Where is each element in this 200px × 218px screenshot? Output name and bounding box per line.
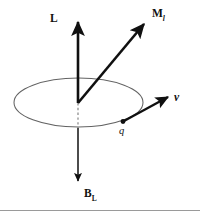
physics-vector-diagram-figure: L Ml v q BL [0,0,200,218]
label-field-base: B [84,187,92,199]
vector-magnetic-moment-Ml [78,24,144,103]
figure-bottom-rule [0,210,200,211]
label-velocity-v: v [174,92,179,104]
label-angular-momentum-L: L [50,13,58,25]
charge-point-q [121,119,126,124]
label-field-subscript: L [92,194,97,203]
label-magnetic-moment-subscript: l [163,14,165,23]
label-magnetic-moment-Ml: Ml [152,4,165,23]
vector-velocity-v [123,97,168,122]
label-charge-q: q [119,126,124,137]
vector-diagram-canvas [0,0,200,218]
label-field-BL: BL [84,184,97,203]
label-magnetic-moment-base: M [152,7,163,19]
